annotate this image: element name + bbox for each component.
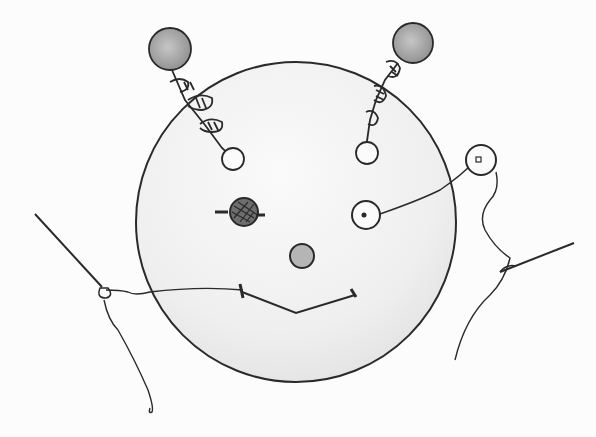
drawing-canvas: Pencil sketch of a round face with butto… xyxy=(0,0,596,437)
face xyxy=(136,62,456,382)
right-needle xyxy=(500,243,574,272)
nose-button xyxy=(290,244,314,268)
left-needle xyxy=(35,214,111,298)
right-eye-button xyxy=(352,201,380,229)
sketch-illustration xyxy=(0,0,596,437)
